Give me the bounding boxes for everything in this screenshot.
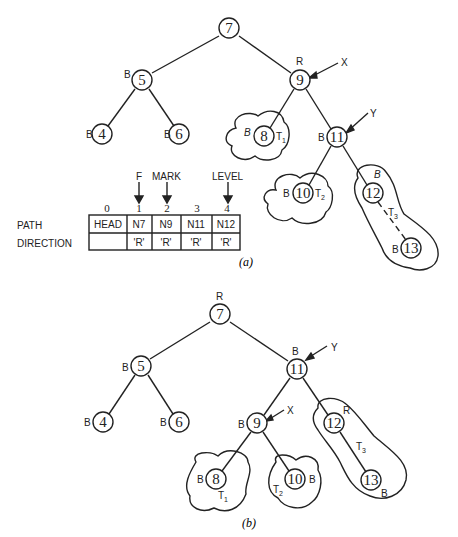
table-index-1: 1 (136, 202, 142, 214)
node-b-12-color: R (343, 405, 350, 416)
caption-a: (a) (239, 255, 253, 269)
table-cell-path-3: N11 (187, 219, 205, 230)
table-cell-direction-3: 'R' (190, 237, 201, 248)
caption-b: (b) (242, 516, 256, 530)
node-a-12-color: B (374, 169, 381, 180)
node-b-9-color: B (238, 419, 245, 430)
node-b-6-key: 6 (175, 414, 183, 430)
table-index-0: 0 (104, 202, 110, 214)
node-b-10-key: 10 (288, 471, 303, 487)
node-a-8-key: 8 (260, 128, 268, 144)
subtree-a-t2: T2 (315, 188, 325, 201)
subtree-b-t3: T3 (356, 441, 366, 454)
node-b-11-key: 11 (290, 361, 304, 377)
pointer-a-x: X (341, 57, 348, 68)
table-cell-path-2: N9 (160, 219, 173, 230)
node-b-8-color: B (197, 474, 204, 485)
node-b-13-color: B (381, 488, 388, 499)
table-pointer-f: F (136, 171, 142, 182)
node-b-5-color: B (122, 362, 129, 373)
subtree-a-t1-label: 1 (282, 137, 286, 144)
node-a-10-color: B (283, 188, 290, 199)
node-a-12-key: 12 (366, 185, 381, 201)
table-row-direction-label: DIRECTION (17, 238, 72, 249)
pointer-a-y: Y (370, 108, 377, 119)
subtree-a-t3: T3 (388, 207, 398, 220)
table-cell-path-0: HEAD (94, 219, 122, 230)
node-a-6-key: 6 (175, 126, 183, 142)
node-a-4-key: 4 (98, 126, 106, 142)
table-cell-path-4: N12 (217, 219, 236, 230)
table-row-path-label: PATH (17, 220, 42, 231)
node-b-7-key: 7 (216, 306, 224, 322)
node-a-7-key: 7 (225, 20, 233, 36)
pointer-b-x: X (287, 405, 294, 416)
node-a-13-color: B (392, 244, 399, 255)
node-b-13-key: 13 (364, 472, 379, 488)
table-pointer-mark: MARK (152, 171, 181, 182)
diagram-canvas: 7 5 9 4 6 8 11 10 12 13 B R B B B B B B … (0, 0, 458, 537)
node-a-5-key: 5 (138, 72, 146, 88)
table-cell-path-1: N7 (133, 219, 146, 230)
table-cell-direction-4: 'R' (220, 237, 231, 248)
node-b-5-key: 5 (137, 358, 145, 374)
node-a-11-key: 11 (330, 129, 344, 145)
subtree-b-t2-label: 2 (279, 490, 283, 497)
subtree-b-t1-label: 1 (224, 496, 228, 503)
node-b-8-key: 8 (212, 471, 220, 487)
table-index-2: 2 (164, 202, 170, 214)
node-a-6-color: B (164, 129, 171, 140)
node-b-10-color: B (309, 474, 316, 485)
node-a-10-key: 10 (296, 185, 311, 201)
node-a-9-color: R (296, 56, 303, 67)
pointer-b-y: Y (331, 342, 338, 353)
node-a-5-color: B (124, 69, 131, 80)
table-pointer-level: LEVEL (212, 171, 244, 182)
node-a-11-color: B (318, 132, 325, 143)
node-b-7-color: R (216, 291, 223, 302)
node-a-8-color: B (244, 127, 251, 138)
subtree-a-t2-label: 2 (321, 194, 325, 201)
node-a-13-key: 13 (404, 240, 419, 256)
table-cell-direction-2: 'R' (160, 237, 171, 248)
node-b-4-color: B (84, 417, 91, 428)
node-b-12-key: 12 (327, 415, 342, 431)
subtree-a-t1: T1 (276, 131, 286, 144)
node-b-6-color: B (160, 417, 167, 428)
subtree-a-t3-label: 3 (394, 213, 398, 220)
subtree-b-t3-label: 3 (362, 447, 366, 454)
subtree-b-t1: T1 (218, 490, 228, 503)
figure-b-nodes (93, 304, 381, 490)
node-b-4-key: 4 (99, 414, 107, 430)
node-b-9-key: 9 (253, 415, 261, 431)
node-a-9-key: 9 (296, 72, 304, 88)
table-index-3: 3 (194, 202, 200, 214)
node-a-4-color: B (86, 129, 93, 140)
node-b-11-color: B (292, 346, 299, 357)
table-index-4: 4 (224, 202, 230, 214)
table-cell-direction-1: 'R' (133, 237, 144, 248)
